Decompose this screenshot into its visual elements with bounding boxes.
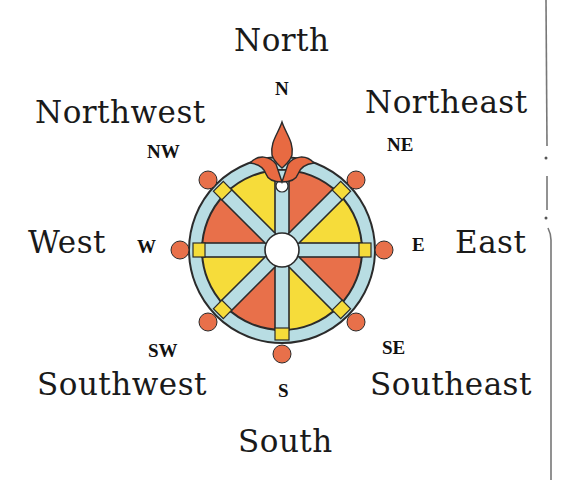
page-edge-line <box>0 0 565 480</box>
compass-diagram: North Northeast East Southeast South Sou… <box>0 0 565 480</box>
